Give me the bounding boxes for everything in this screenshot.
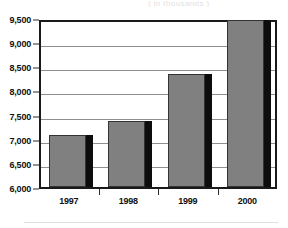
- bar-body: [49, 135, 86, 187]
- bar-shadow: [145, 121, 152, 187]
- y-axis-tick-label: 6,500: [9, 160, 31, 170]
- x-axis-tick-mark: [218, 189, 219, 195]
- x-axis-tick-label: 1998: [119, 196, 138, 206]
- x-axis-tick-mark: [158, 189, 159, 195]
- y-axis-tick-label: 8,000: [9, 87, 31, 97]
- bar-body: [168, 74, 205, 187]
- y-axis: 9,5009,0008,5008,0007,5007,0006,5006,000: [0, 0, 39, 228]
- x-axis-tick-label: 1999: [178, 196, 197, 206]
- bar-1998[interactable]: [108, 121, 152, 187]
- y-axis-tick-label: 7,500: [9, 112, 31, 122]
- bar-shadow: [264, 20, 271, 187]
- x-axis: 1997199819992000: [39, 196, 277, 210]
- y-axis-tick-label: 9,500: [9, 15, 31, 25]
- x-axis-tick-label: 1997: [59, 196, 78, 206]
- y-axis-tick-label: 8,500: [9, 63, 31, 73]
- y-axis-tick-label: 7,000: [9, 136, 31, 146]
- y-axis-tick-label: 6,000: [9, 184, 31, 194]
- chart-title-remnant: ( in thousands ): [148, 0, 278, 7]
- footer-divider: [24, 222, 278, 223]
- bar-1997[interactable]: [49, 135, 93, 187]
- bar-body: [227, 20, 264, 187]
- bar-body: [108, 121, 145, 187]
- x-axis-tick-mark: [99, 189, 100, 195]
- y-axis-tick-label: 9,000: [9, 39, 31, 49]
- bar-shadow: [86, 135, 93, 187]
- x-axis-tick-label: 2000: [238, 196, 257, 206]
- bar-shadow: [205, 74, 212, 187]
- x-axis-ticks: [39, 189, 277, 196]
- plot-area: [39, 20, 277, 189]
- bar-chart-figure: ( in thousands ) 9,5009,0008,5008,0007,5…: [0, 0, 288, 228]
- bar-1999[interactable]: [168, 74, 212, 187]
- bars-layer: [41, 22, 275, 187]
- bar-2000[interactable]: [227, 20, 271, 187]
